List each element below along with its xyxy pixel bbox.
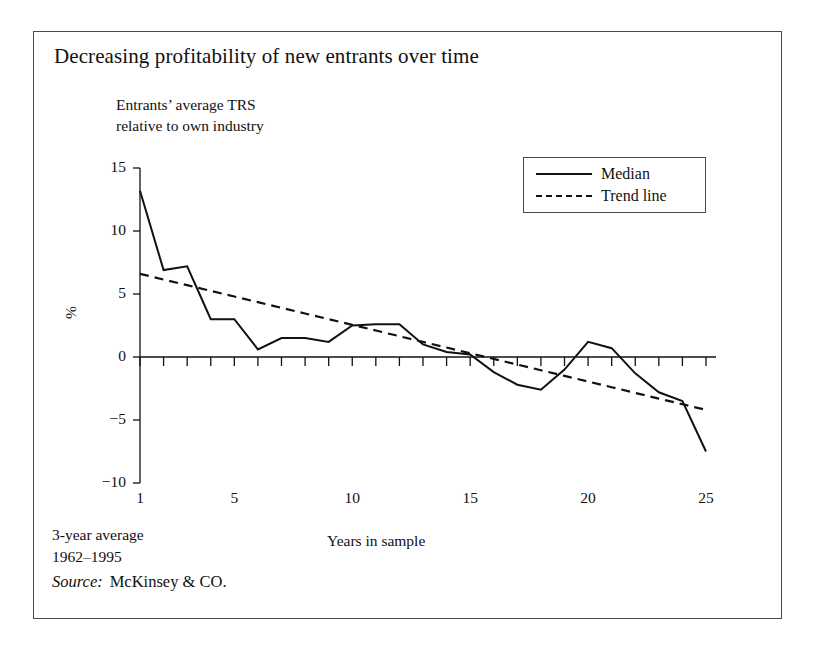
- source-line: Source:McKinsey & CO.: [52, 572, 227, 592]
- source-value: McKinsey & CO.: [110, 572, 227, 591]
- legend-label-trend-line: Trend line: [601, 187, 667, 205]
- figure-frame: Decreasing profitability of new entrants…: [33, 31, 782, 619]
- y-tick-label: 10: [84, 221, 126, 239]
- y-tick-label: 0: [84, 347, 126, 365]
- axes-group: [133, 168, 716, 483]
- series-group: [140, 191, 706, 452]
- legend-swatch-dashed-icon: [536, 195, 592, 197]
- source-label: Source:: [52, 572, 103, 591]
- series-trend-line: [140, 274, 706, 410]
- footnote: 3-year average 1962–1995: [52, 524, 144, 567]
- x-tick-label: 20: [573, 489, 603, 507]
- chart-legend: Median Trend line: [523, 157, 706, 213]
- x-tick-label: 5: [219, 489, 249, 507]
- y-tick-label: 15: [84, 158, 126, 176]
- x-tick-label: 25: [691, 489, 721, 507]
- legend-label-median: Median: [601, 165, 650, 183]
- legend-item-trend-line: Trend line: [536, 186, 667, 206]
- y-tick-label: −10: [84, 473, 126, 491]
- figure-page: Decreasing profitability of new entrants…: [0, 0, 817, 653]
- x-tick-label: 10: [337, 489, 367, 507]
- legend-item-median: Median: [536, 164, 650, 184]
- x-axis-title: Years in sample: [327, 532, 425, 550]
- legend-swatch-solid-icon: [536, 173, 592, 175]
- series-median: [140, 191, 706, 452]
- y-axis-title: %: [62, 306, 80, 319]
- x-tick-label: 15: [455, 489, 485, 507]
- x-tick-label: 1: [125, 489, 155, 507]
- y-tick-label: −5: [84, 410, 126, 428]
- y-tick-label: 5: [84, 284, 126, 302]
